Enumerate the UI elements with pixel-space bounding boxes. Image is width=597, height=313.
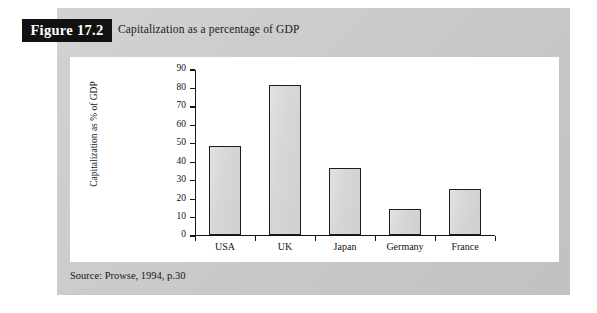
chart-card: Capitalization as % of GDP 0102030405060… — [70, 57, 559, 262]
y-axis-tick-label: 90 — [177, 62, 187, 75]
y-axis-tick-label: 30 — [177, 173, 187, 186]
y-axis-tick-label: 70 — [177, 99, 187, 112]
y-axis-tick: 80 — [190, 88, 195, 89]
x-axis-line — [195, 235, 495, 236]
bar-france — [449, 189, 480, 235]
x-axis-label-usa: USA — [195, 241, 255, 252]
x-axis-label-france: France — [435, 241, 495, 252]
y-axis-tick: 20 — [190, 199, 195, 200]
bar-sheen — [270, 86, 299, 233]
y-axis-tick: 10 — [190, 217, 195, 218]
figure-number-badge: Figure 17.2 — [22, 19, 112, 42]
bar-usa — [209, 146, 240, 235]
x-axis-label-japan: Japan — [315, 241, 375, 252]
y-axis-tick-label: 20 — [177, 192, 187, 205]
bar-sheen — [330, 169, 359, 233]
y-axis-tick-label: 0 — [181, 228, 186, 241]
y-axis-tick: 90 — [190, 69, 195, 70]
y-axis-tick: 50 — [190, 143, 195, 144]
bar-chart: Capitalization as % of GDP 0102030405060… — [70, 57, 559, 262]
y-axis-tick: 60 — [190, 125, 195, 126]
bar-uk — [269, 85, 300, 234]
x-axis-label-uk: UK — [255, 241, 315, 252]
figure-title: Capitalization as a percentage of GDP — [118, 23, 300, 35]
y-axis-line — [195, 70, 196, 236]
bar-japan — [329, 168, 360, 234]
y-axis-tick-label: 10 — [177, 210, 187, 223]
x-axis-label-germany: Germany — [375, 241, 435, 252]
y-axis-tick: 70 — [190, 106, 195, 107]
bar-germany — [389, 209, 420, 235]
y-axis-tick-label: 40 — [177, 155, 187, 168]
figure-number-label: Figure 17.2 — [30, 22, 103, 39]
x-axis-tick — [495, 236, 496, 241]
y-axis-tick-label: 80 — [177, 81, 187, 94]
bar-sheen — [210, 147, 239, 234]
chart-axes: 0102030405060708090 USAUKJapanGermanyFra… — [195, 70, 495, 236]
y-axis-tick-label: 60 — [177, 118, 187, 131]
y-axis-tick: 30 — [190, 180, 195, 181]
y-axis-tick-label: 50 — [177, 136, 187, 149]
y-axis-title: Capitalization as % of GDP — [89, 64, 99, 204]
bar-sheen — [450, 190, 479, 234]
y-axis-tick: 40 — [190, 162, 195, 163]
source-note: Source: Prowse, 1994, p.30 — [70, 270, 186, 281]
bar-sheen — [390, 210, 419, 234]
